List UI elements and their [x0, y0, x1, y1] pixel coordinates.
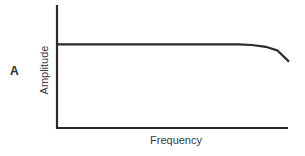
panel-label: A — [10, 64, 19, 78]
x-axis-label: Frequency — [150, 134, 202, 146]
amplitude-curve — [57, 44, 289, 61]
y-axis-label: Amplitude — [38, 46, 50, 95]
